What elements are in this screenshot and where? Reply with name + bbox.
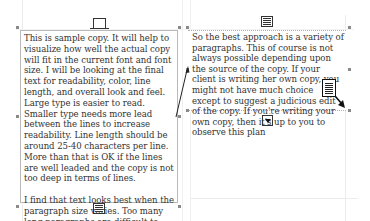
thread-overlay	[0, 0, 370, 221]
thread-arrow-head	[186, 66, 190, 73]
thread-link-line	[176, 70, 187, 117]
